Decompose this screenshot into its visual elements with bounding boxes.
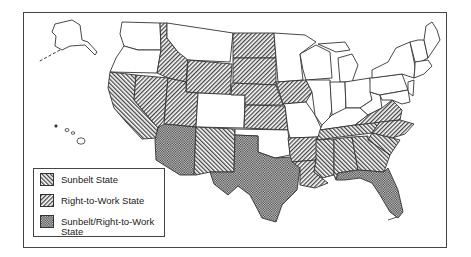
state-washington <box>120 22 161 50</box>
state-maine <box>424 22 440 58</box>
sunbelt-right-to-work-swatch <box>40 215 54 228</box>
state-kansas <box>244 105 288 130</box>
state-mississippi <box>314 139 334 178</box>
legend-label: Right-to-Work State <box>61 196 144 206</box>
state-oregon <box>110 46 161 73</box>
florida-keys <box>388 217 397 220</box>
state-florida <box>336 168 403 218</box>
state-south-dakota <box>233 58 276 85</box>
state-new-york <box>372 42 415 78</box>
state-wyoming <box>186 60 232 95</box>
legend-label: Sunbelt State <box>61 175 118 185</box>
state-iowa <box>276 80 312 104</box>
state-new-mexico <box>194 127 235 175</box>
sunbelt-swatch <box>40 173 54 186</box>
legend-label: Sunbelt/Right-to-Work State <box>61 217 156 237</box>
state-hawaii <box>55 125 85 144</box>
legend-item-sunbelt: Sunbelt State <box>40 173 158 193</box>
right-to-work-swatch <box>40 194 54 207</box>
state-north-dakota <box>233 33 276 58</box>
state-colorado <box>196 93 245 128</box>
aleutian-islands <box>38 50 60 62</box>
legend-item-right-to-work: Right-to-Work State <box>40 194 158 214</box>
map-legend: Sunbelt State Right-to-Work State Sunbel… <box>33 168 165 237</box>
legend-item-sunbelt-right-to-work: Sunbelt/Right-to-Work State <box>40 215 158 239</box>
state-arkansas <box>288 137 318 162</box>
state-alaska <box>52 20 97 55</box>
state-massachusetts-ct-ri <box>414 60 432 78</box>
